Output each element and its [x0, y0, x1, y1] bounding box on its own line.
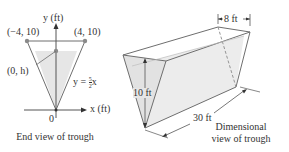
width-arrow-left-icon	[218, 18, 222, 21]
dimensional-caption-line2: view of trough	[200, 133, 282, 145]
line-equation: y = 52x	[73, 76, 97, 89]
width-label: 8 ft	[224, 14, 238, 24]
point-origin	[55, 109, 58, 112]
dimensional-caption-line1: Dimensional	[200, 121, 282, 133]
y-axis-arrow-icon	[54, 23, 59, 29]
line-eq-prefix: y =	[73, 76, 89, 87]
width-arrow-right-icon	[246, 18, 250, 21]
line-eq-suffix: x	[92, 76, 97, 87]
right-top-point-label: (4, 10)	[74, 27, 101, 37]
point-right-top	[83, 39, 87, 43]
rim-far-end	[218, 27, 250, 32]
height-label: 10 ft	[133, 88, 152, 98]
length-arrow-far-icon	[242, 89, 247, 94]
dimensional-view	[123, 14, 260, 138]
left-top-point-label: (−4, 10)	[7, 27, 39, 37]
y-axis-label: y (ft)	[43, 13, 63, 23]
x-axis-arrow-icon	[81, 108, 87, 113]
x-axis-label: x (ft)	[90, 104, 110, 114]
point-left-top	[25, 39, 29, 43]
water-point-label: (0, h)	[7, 66, 29, 76]
length-arrow-near-icon	[162, 133, 167, 137]
end-view	[24, 23, 87, 118]
origin-label: 0	[49, 114, 54, 124]
dimensional-view-caption: Dimensional view of trough	[200, 121, 282, 145]
length-dim-line-1	[164, 124, 190, 136]
end-view-caption: End view of trough	[10, 131, 100, 143]
length-ext-near	[145, 130, 168, 138]
